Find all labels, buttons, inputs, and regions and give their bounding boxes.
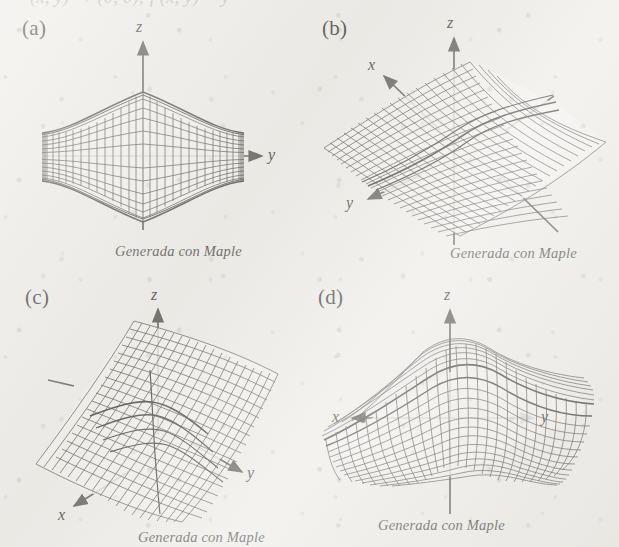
panel-d-x-label: x: [332, 408, 339, 426]
panel-b-surface: [324, 62, 606, 236]
panel-d-plot: [310, 274, 619, 547]
panel-b-z-label: z: [447, 14, 453, 32]
panel-b-plot: [310, 0, 619, 274]
panel-d-surface: [322, 339, 594, 486]
panel-b-y-label: y: [346, 194, 353, 212]
panel-d: (d): [310, 274, 619, 547]
panel-a-z-label: z: [136, 18, 142, 36]
panel-b: (b): [310, 0, 619, 274]
panel-c-caption: Generada con Maple: [138, 529, 265, 546]
panel-c-plot: [0, 274, 310, 547]
panel-a-y-label: y: [268, 146, 275, 164]
panel-c-y-label: y: [247, 464, 254, 482]
panel-c-x-label: x: [58, 506, 65, 524]
panel-c: (c): [0, 274, 310, 547]
panel-c-axis-stub-left: [48, 380, 74, 386]
panel-b-x-label: x: [368, 56, 375, 74]
panel-a: (a): [0, 0, 310, 274]
panel-c-z-label: z: [151, 286, 157, 304]
panel-c-surface: [36, 321, 278, 522]
panel-d-z-label: z: [444, 286, 450, 304]
panel-d-caption: Generada con Maple: [378, 517, 505, 534]
panel-a-caption: Generada con Maple: [115, 243, 242, 260]
panel-a-plot: [0, 0, 310, 274]
panel-a-surface: [42, 92, 244, 222]
panel-d-y-label: y: [541, 408, 548, 426]
panel-b-caption: Generada con Maple: [450, 245, 577, 262]
